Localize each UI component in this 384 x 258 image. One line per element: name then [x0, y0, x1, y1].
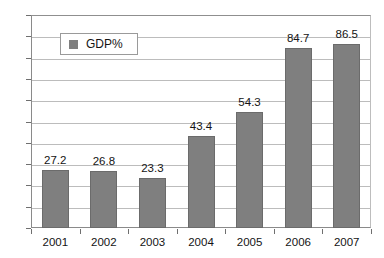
bar [285, 48, 312, 228]
bar-value-label: 43.4 [176, 120, 226, 133]
x-axis-tick-label: 2001 [30, 236, 80, 249]
x-axis-tick-label: 2006 [273, 236, 323, 249]
gridline [32, 59, 370, 60]
bar-value-label: 84.7 [273, 32, 323, 45]
bar [188, 136, 215, 228]
bar [42, 170, 69, 228]
bar [236, 112, 263, 228]
bar-value-label: 26.8 [79, 155, 129, 168]
x-axis-tick-label: 2003 [127, 236, 177, 249]
bar-value-label: 54.3 [225, 96, 275, 109]
x-axis-tick-mark [322, 229, 323, 234]
gridline [32, 80, 370, 81]
bar-chart: 0102030405060708090100 27.226.823.343.45… [0, 0, 384, 258]
x-axis-tick-mark [128, 229, 129, 234]
bar [139, 178, 166, 228]
x-axis-tick-label: 2007 [322, 236, 372, 249]
y-axis-tick-mark [26, 79, 31, 80]
legend-swatch-gdp-icon [69, 40, 78, 49]
x-axis-tick-mark [371, 229, 372, 234]
bar [333, 44, 360, 228]
x-axis-tick-mark [225, 229, 226, 234]
x-axis-tick-mark [31, 229, 32, 234]
bar [90, 171, 117, 228]
x-axis-tick-mark [80, 229, 81, 234]
y-axis-tick-mark [26, 100, 31, 101]
bar-value-label: 27.2 [30, 154, 80, 167]
chart-legend: GDP% [60, 33, 138, 55]
x-axis-tick-mark [274, 229, 275, 234]
y-axis-tick-mark [26, 185, 31, 186]
y-axis-tick-mark [26, 58, 31, 59]
x-axis-tick-mark [177, 229, 178, 234]
y-axis-tick-mark [26, 122, 31, 123]
x-axis-tick-label: 2002 [79, 236, 129, 249]
y-axis-tick-mark [26, 36, 31, 37]
bar-value-label: 23.3 [127, 162, 177, 175]
y-axis-tick-mark [26, 207, 31, 208]
x-axis-tick-label: 2004 [176, 236, 226, 249]
x-axis-tick-label: 2005 [225, 236, 275, 249]
y-axis-tick-mark [26, 15, 31, 16]
legend-label-gdp: GDP% [86, 38, 123, 50]
gridline [32, 101, 370, 102]
bar-value-label: 86.5 [322, 28, 372, 41]
y-axis-tick-mark [26, 143, 31, 144]
